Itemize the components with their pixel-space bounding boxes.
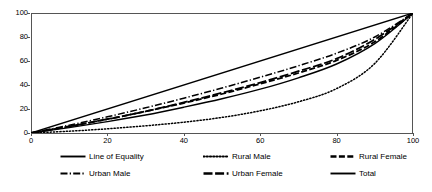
x-tick-mark — [31, 133, 32, 136]
x-tick-label: 40 — [169, 137, 199, 145]
y-tick-label: 80 — [4, 33, 28, 41]
legend-row: Urban MaleUrban FemaleTotal — [60, 169, 420, 186]
x-tick-mark — [337, 133, 338, 136]
legend-label: Urban Female — [232, 169, 283, 178]
x-tick-mark — [107, 133, 108, 136]
legend-item-total[interactable]: Total — [330, 169, 376, 178]
chart-container: 020406080100 Line of EqualityRural MaleR… — [0, 0, 432, 192]
x-tick-mark — [184, 133, 185, 136]
x-axis-line — [31, 133, 413, 134]
y-tick-mark — [27, 109, 30, 110]
x-tick-label: 60 — [245, 137, 275, 145]
legend-swatch-icon — [203, 152, 229, 161]
legend-swatch-icon — [330, 152, 356, 161]
x-tick-label: 0 — [16, 137, 46, 145]
series-line-line-of-equality — [31, 13, 413, 133]
legend-swatch-icon — [203, 169, 229, 178]
y-tick-mark — [27, 61, 30, 62]
y-tick-label: 0 — [4, 129, 28, 137]
chart-series-layer — [31, 13, 413, 133]
legend-item-line-of-equality[interactable]: Line of Equality — [60, 152, 144, 161]
x-tick-mark — [260, 133, 261, 136]
x-tick-label: 80 — [322, 137, 352, 145]
y-tick-mark — [27, 85, 30, 86]
y-tick-label: 20 — [4, 105, 28, 113]
legend-label: Line of Equality — [89, 152, 144, 161]
x-tick-mark — [413, 133, 414, 136]
y-tick-label: 40 — [4, 81, 28, 89]
legend-label: Rural Female — [359, 152, 407, 161]
legend-item-urban-female[interactable]: Urban Female — [203, 169, 283, 178]
legend-swatch-icon — [60, 152, 86, 161]
legend-label: Urban Male — [89, 169, 130, 178]
y-tick-mark — [27, 37, 30, 38]
legend-item-urban-male[interactable]: Urban Male — [60, 169, 130, 178]
legend-swatch-icon — [60, 169, 86, 178]
legend-label: Rural Male — [232, 152, 271, 161]
y-tick-mark — [27, 133, 30, 134]
chart-legend: Line of EqualityRural MaleRural FemaleUr… — [60, 152, 420, 190]
x-tick-label: 20 — [92, 137, 122, 145]
legend-item-rural-male[interactable]: Rural Male — [203, 152, 271, 161]
y-axis: 020406080100 — [0, 0, 28, 192]
y-tick-label: 100 — [4, 9, 28, 17]
legend-swatch-icon — [330, 169, 356, 178]
legend-row: Line of EqualityRural MaleRural Female — [60, 152, 420, 169]
y-tick-label: 60 — [4, 57, 28, 65]
legend-item-rural-female[interactable]: Rural Female — [330, 152, 407, 161]
y-tick-mark — [27, 13, 30, 14]
x-tick-label: 100 — [398, 137, 428, 145]
legend-label: Total — [359, 169, 376, 178]
